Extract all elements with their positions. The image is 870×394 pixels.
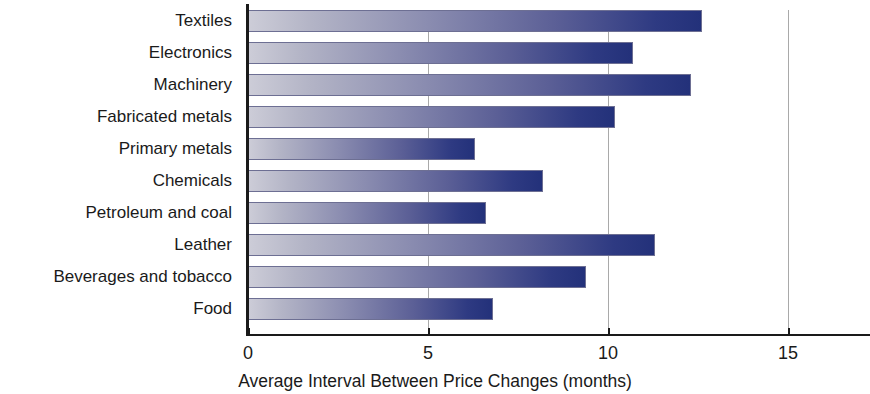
bar [248, 298, 493, 320]
x-tick-mark [788, 328, 790, 336]
x-tick-mark [608, 328, 610, 336]
bar [248, 234, 655, 256]
bar [248, 138, 475, 160]
bar [248, 106, 615, 128]
y-axis-line [246, 4, 249, 336]
category-label: Primary metals [119, 138, 232, 160]
x-tick-mark [248, 328, 250, 336]
x-axis-title: Average Interval Between Price Changes (… [0, 370, 870, 392]
bar [248, 170, 543, 192]
x-tick-label: 15 [768, 342, 808, 364]
category-label: Chemicals [153, 170, 232, 192]
bar [248, 266, 586, 288]
category-label: Beverages and tobacco [53, 266, 232, 288]
x-tick-label: 0 [228, 342, 268, 364]
category-label: Leather [174, 234, 232, 256]
x-tick-label: 10 [588, 342, 628, 364]
category-label: Electronics [149, 42, 232, 64]
x-axis-line [246, 334, 870, 336]
category-label: Petroleum and coal [86, 202, 232, 224]
category-label: Machinery [154, 74, 232, 96]
bar [248, 202, 486, 224]
plot-area [248, 10, 848, 332]
category-axis: TextilesElectronicsMachineryFabricated m… [0, 10, 240, 330]
bar [248, 74, 691, 96]
bar [248, 42, 633, 64]
category-label: Fabricated metals [97, 106, 232, 128]
gridline [788, 10, 789, 332]
category-label: Textiles [175, 10, 232, 32]
bar [248, 10, 702, 32]
x-tick-mark [428, 328, 430, 336]
category-label: Food [193, 298, 232, 320]
bar-chart: TextilesElectronicsMachineryFabricated m… [0, 0, 870, 394]
x-tick-label: 5 [408, 342, 448, 364]
